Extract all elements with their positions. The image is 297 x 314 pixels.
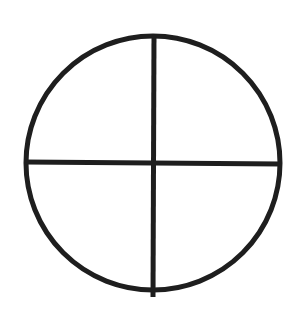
vertical-divider-line xyxy=(153,35,154,297)
diagram-canvas xyxy=(0,0,297,314)
quadrant-circle-diagram xyxy=(0,0,297,314)
horizontal-divider-line xyxy=(25,162,281,164)
